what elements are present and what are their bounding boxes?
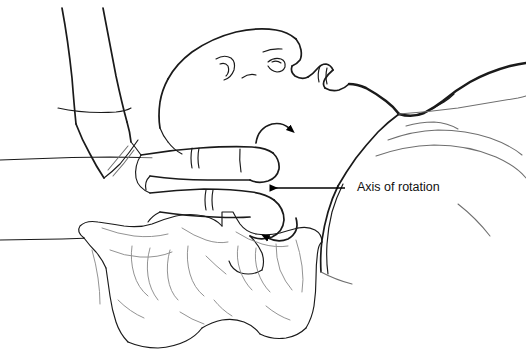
upper-rotation-arrow: [256, 124, 289, 144]
clinician-hand-fingers: [136, 147, 284, 274]
patient-shoulder-torso: [168, 63, 526, 284]
cervical-vertebra: [79, 212, 322, 348]
patient-head-profile: [159, 29, 399, 142]
clinician-forearm: [58, 8, 141, 178]
axis-of-rotation-label: Axis of rotation: [357, 180, 440, 194]
treatment-table-surface: [0, 157, 152, 240]
illustration-figure: Axis of rotation: [0, 0, 526, 356]
line-drawing-canvas: Axis of rotation: [0, 0, 526, 356]
axis-of-rotation-callout: Axis of rotation: [270, 180, 440, 194]
